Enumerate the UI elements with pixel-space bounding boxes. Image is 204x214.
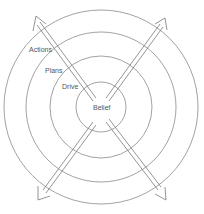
label-drive: Drive (62, 83, 78, 90)
label-actions: Actions (29, 46, 52, 53)
label-plans: Plans (45, 67, 63, 74)
label-belief: Belief (93, 104, 111, 111)
arrow-south-west (38, 122, 96, 200)
concentric-belief-diagram: Actions Plans Drive Belief (0, 0, 204, 214)
arrow-north-east (106, 18, 167, 101)
arrow-south-east (106, 119, 166, 200)
